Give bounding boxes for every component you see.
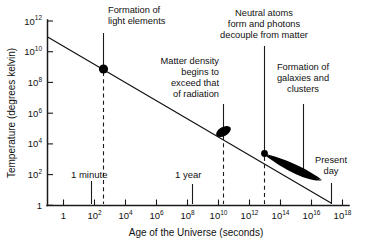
svg-text:106: 106 bbox=[28, 107, 43, 119]
x-tick-10-mantissa: 10 bbox=[210, 210, 221, 221]
y-tick-10-mantissa: 10 bbox=[24, 46, 35, 57]
x-tick-labels: 1 102 104 106 108 1010 1012 1014 bbox=[61, 209, 352, 221]
temperature-vs-age-chart: 1012 1010 108 106 104 102 1 1 102 bbox=[0, 0, 374, 244]
svg-text:1014: 1014 bbox=[272, 209, 290, 221]
x-tick-18-mantissa: 10 bbox=[334, 210, 345, 221]
annotation-light-elements-line2: light elements bbox=[108, 16, 166, 26]
y-tick-8-exponent: 8 bbox=[38, 76, 42, 83]
annotation-matter-density-line4: of radiation bbox=[173, 89, 219, 99]
svg-text:1018: 1018 bbox=[334, 209, 352, 221]
label-one-minute: 1 minute bbox=[71, 169, 107, 180]
annotation-galaxies-line3: clusters bbox=[287, 84, 319, 94]
x-axis-ticks bbox=[64, 200, 343, 206]
x-tick-12-mantissa: 10 bbox=[241, 210, 252, 221]
annotation-matter-density-line2: begins to bbox=[181, 67, 219, 77]
svg-text:1012: 1012 bbox=[24, 14, 42, 26]
y-tick-8-mantissa: 10 bbox=[28, 77, 39, 88]
label-one-year: 1 year bbox=[175, 169, 201, 180]
annotation-neutral-atoms-line2: form and photons bbox=[228, 19, 301, 29]
marker-galaxy-formation-lens bbox=[266, 154, 322, 180]
x-tick-2-mantissa: 10 bbox=[87, 210, 98, 221]
annotation-neutral-atoms: Neutral atoms form and photons decouple … bbox=[220, 8, 308, 40]
x-tick-16-exponent: 16 bbox=[313, 209, 321, 216]
y-tick-6-exponent: 6 bbox=[38, 107, 42, 114]
x-tick-14-mantissa: 10 bbox=[272, 210, 283, 221]
x-tick-10-exponent: 10 bbox=[220, 209, 228, 216]
annotation-light-elements-line1: Formation of bbox=[108, 5, 161, 15]
svg-text:102: 102 bbox=[87, 209, 102, 221]
y-tick-4-mantissa: 10 bbox=[28, 138, 39, 149]
svg-text:1016: 1016 bbox=[303, 209, 321, 221]
x-tick-4-mantissa: 10 bbox=[118, 210, 129, 221]
marker-light-elements bbox=[99, 64, 108, 73]
x-tick-0-label: 1 bbox=[61, 210, 66, 221]
y-tick-2-mantissa: 10 bbox=[28, 169, 39, 180]
svg-text:1010: 1010 bbox=[210, 209, 228, 221]
svg-text:102: 102 bbox=[28, 168, 43, 180]
svg-text:104: 104 bbox=[28, 137, 43, 149]
annotation-matter-density-line1: Matter density bbox=[161, 56, 220, 66]
annotation-present-day-line2: day bbox=[324, 166, 339, 176]
y-tick-4-exponent: 4 bbox=[38, 137, 42, 144]
y-tick-10-exponent: 10 bbox=[35, 45, 43, 52]
x-tick-6-exponent: 6 bbox=[160, 209, 164, 216]
x-tick-8-mantissa: 10 bbox=[180, 210, 191, 221]
x-tick-14-exponent: 14 bbox=[282, 209, 290, 216]
svg-text:108: 108 bbox=[28, 76, 43, 88]
svg-text:1010: 1010 bbox=[24, 45, 42, 57]
chart-canvas: 1012 1010 108 106 104 102 1 1 102 bbox=[0, 0, 374, 244]
annotation-galaxies-line2: galaxies and bbox=[277, 73, 329, 83]
annotation-galaxies-line1: Formation of bbox=[277, 62, 330, 72]
svg-text:1012: 1012 bbox=[241, 209, 259, 221]
annotation-neutral-atoms-line1: Neutral atoms bbox=[235, 8, 293, 18]
y-tick-12-mantissa: 10 bbox=[24, 16, 35, 27]
annotation-present-day: Present day bbox=[315, 155, 347, 176]
x-tick-4-exponent: 4 bbox=[129, 209, 133, 216]
y-axis-title: Temperature (degrees kelvin) bbox=[6, 48, 17, 178]
x-tick-2-exponent: 2 bbox=[98, 209, 102, 216]
x-tick-6-mantissa: 10 bbox=[149, 210, 160, 221]
y-tick-0-label: 1 bbox=[37, 200, 42, 211]
svg-text:106: 106 bbox=[149, 209, 164, 221]
annotation-galaxies: Formation of galaxies and clusters bbox=[277, 62, 330, 94]
x-tick-8-exponent: 8 bbox=[191, 209, 195, 216]
annotation-neutral-atoms-line3: decouple from matter bbox=[220, 30, 308, 40]
annotation-matter-density-line3: exceed that bbox=[171, 78, 219, 88]
y-tick-2-exponent: 2 bbox=[38, 168, 42, 175]
y-axis-ticks bbox=[48, 21, 54, 205]
y-tick-6-mantissa: 10 bbox=[28, 108, 39, 119]
svg-text:104: 104 bbox=[118, 209, 133, 221]
svg-text:108: 108 bbox=[180, 209, 195, 221]
x-tick-18-exponent: 18 bbox=[344, 209, 352, 216]
x-axis-title: Age of the Universe (seconds) bbox=[129, 227, 264, 238]
y-tick-12-exponent: 12 bbox=[35, 14, 43, 21]
annotation-present-day-line1: Present bbox=[315, 155, 347, 165]
y-tick-labels: 1012 1010 108 106 104 102 1 bbox=[24, 14, 42, 211]
x-tick-16-mantissa: 10 bbox=[303, 210, 314, 221]
annotation-matter-density: Matter density begins to exceed that of … bbox=[161, 56, 220, 99]
x-tick-12-exponent: 12 bbox=[251, 209, 259, 216]
annotation-light-elements: Formation of light elements bbox=[108, 5, 166, 26]
